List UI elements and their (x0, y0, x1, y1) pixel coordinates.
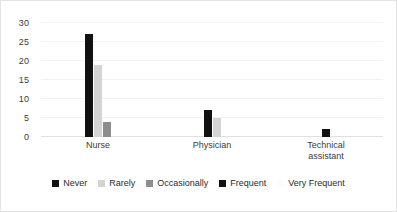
legend-label: Never (63, 179, 87, 188)
legend-label: Frequent (230, 179, 266, 188)
x-axis-label: Technicalassistant (291, 140, 361, 162)
x-axis-label: Physician (177, 140, 247, 151)
legend-swatch-icon (277, 180, 284, 187)
bar (85, 34, 93, 137)
x-axis-label-line: Technical (291, 140, 361, 151)
y-tick-label: 30 (19, 19, 29, 28)
legend-swatch-icon (146, 180, 153, 187)
legend-swatch-icon (98, 180, 105, 187)
legend-swatch-icon (219, 180, 226, 187)
bar (213, 118, 221, 137)
y-tick-label: 20 (19, 57, 29, 66)
chart-legend: NeverRarelyOccasionallyFrequentVery Freq… (1, 179, 396, 188)
y-tick-label: 25 (19, 38, 29, 47)
bar-group (155, 23, 269, 137)
bar-group (269, 23, 383, 137)
y-tick-label: 0 (24, 133, 29, 142)
bar-group (41, 23, 155, 137)
bar-chart-figure: 051015202530 NursePhysicianTechnicalassi… (0, 0, 397, 212)
plot-area (41, 23, 383, 137)
bar (94, 65, 102, 137)
y-tick-label: 10 (19, 95, 29, 104)
legend-swatch-icon (52, 180, 59, 187)
bar (103, 122, 111, 137)
legend-item[interactable]: Very Frequent (277, 179, 345, 188)
x-axis-label-line: Nurse (63, 140, 133, 151)
legend-item[interactable]: Rarely (98, 179, 135, 188)
legend-item[interactable]: Frequent (219, 179, 266, 188)
legend-label: Rarely (109, 179, 135, 188)
y-tick-label: 5 (24, 114, 29, 123)
bar (204, 110, 212, 137)
x-axis-label-line: Physician (177, 140, 247, 151)
x-axis-label-line: assistant (291, 151, 361, 162)
legend-item[interactable]: Occasionally (146, 179, 208, 188)
y-axis: 051015202530 (1, 23, 35, 137)
bar (322, 129, 330, 137)
y-tick-label: 15 (19, 76, 29, 85)
legend-label: Occasionally (157, 179, 208, 188)
x-axis-category-labels: NursePhysicianTechnicalassistant (41, 140, 383, 174)
x-axis-label: Nurse (63, 140, 133, 151)
legend-label: Very Frequent (288, 179, 345, 188)
legend-item[interactable]: Never (52, 179, 87, 188)
